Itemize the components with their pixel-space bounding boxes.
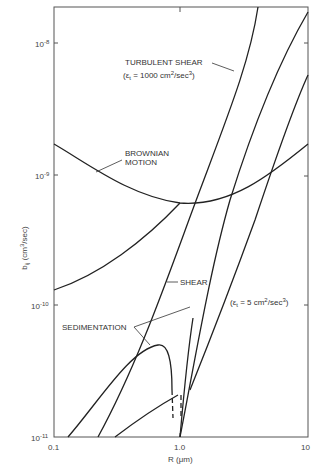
turbulent-shear-curve-2 xyxy=(180,12,308,437)
x-axis-label: R (μm) xyxy=(168,455,193,464)
label-sedimentation: SEDIMENTATION xyxy=(62,323,127,332)
sedimentation-upper-curve xyxy=(115,395,178,437)
shear-curve xyxy=(190,75,308,390)
label-turbulent-shear: TURBULENT SHEAR xyxy=(125,58,203,67)
sedimentation-curve xyxy=(68,345,172,437)
brownian-lower-curve xyxy=(54,203,180,290)
label-shear-eps: (εt = 5 cm2/sec3) xyxy=(230,297,289,308)
x-tick-0.1: 0.1 xyxy=(48,443,60,452)
y-axis-label: bij (cm3/sec) xyxy=(19,226,30,270)
label-brownian-1: BROWNIAN xyxy=(125,149,169,158)
y-tick-1e-8: 10-8 xyxy=(35,39,50,49)
x-tick-1.0: 1.0 xyxy=(174,443,186,452)
label-turbulent-shear-eps: (εt = 1000 cm2/sec3) xyxy=(123,70,195,81)
label-shear: SHEAR xyxy=(180,278,208,287)
x-tick-10: 10 xyxy=(301,443,310,452)
chart: 10-8 10-9 10-10 10-11 0.1 1.0 10 R (μm) … xyxy=(0,0,318,470)
y-tick-1e-9: 10-9 xyxy=(35,171,50,181)
y-tick-1e-11: 10-11 xyxy=(31,433,49,443)
brownian-upper-curve xyxy=(54,144,308,203)
y-tick-1e-10: 10-10 xyxy=(31,301,49,311)
label-brownian-2: MOTION xyxy=(125,158,157,167)
